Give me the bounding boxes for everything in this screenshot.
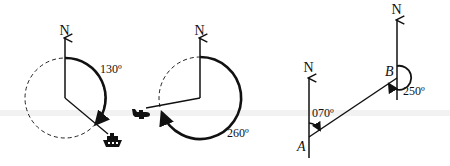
north-label-b: N — [392, 2, 402, 17]
scan-artifact-band — [0, 110, 450, 116]
angle-arc-a — [309, 123, 320, 130]
point-a-label: A — [296, 139, 306, 154]
bearings-figure: N 130º N 260º — [0, 0, 450, 166]
plane-bearing-diagram: N 260º — [132, 23, 249, 140]
angle-label-a: 070º — [312, 106, 334, 120]
ship-icon — [103, 133, 122, 147]
angle-label: 130º — [100, 62, 122, 76]
point-b-label: B — [385, 64, 394, 79]
north-label: N — [195, 23, 205, 38]
angle-label: 260º — [227, 126, 249, 140]
angle-label-b: 250º — [403, 84, 425, 98]
bearing-line — [146, 98, 200, 108]
ship-bearing-diagram: N 130º — [25, 23, 122, 147]
north-label-a: N — [304, 60, 314, 75]
north-label: N — [60, 23, 70, 38]
a-to-b-bearing-diagram: N N 070º 250º A B — [296, 2, 425, 158]
